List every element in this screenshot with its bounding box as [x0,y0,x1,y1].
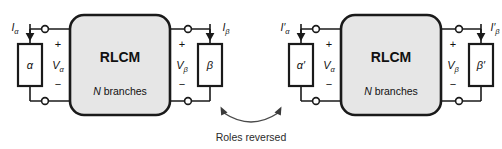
port-element-beta-label: β [206,59,214,71]
circuit-diagram-svg: RLCM N branches α Iα + Vα − [0,0,502,149]
current-arrow-left-head-primed [297,33,306,41]
voltage-label-left-primed-sub: α [331,65,336,74]
polarity-minus-left: − [55,78,61,90]
rlcm-title: RLCM [100,49,140,65]
rlcm-subtitle-rest: branches [101,85,147,97]
terminal-node-right-bottom [185,98,192,105]
voltage-label-left-primed: Vα [323,59,335,74]
rlcm-subtitle: N branches [93,85,147,97]
port-element-alpha-label: α [27,59,34,71]
current-label-right-primed-sub: β [494,27,500,36]
current-label-left-primed: I′α [280,21,290,36]
rlcm-subtitle-primed: N branches [364,85,418,97]
polarity-plus-left: + [55,38,61,50]
terminal-node-left-bottom-primed [313,98,320,105]
circuit-unprimed: RLCM N branches α Iα + Vα − [11,15,230,115]
polarity-plus-left-primed: + [326,38,332,50]
current-label-left-sub: α [14,27,19,36]
port-element-alpha-primed-label: α′ [297,59,306,71]
roles-reversed-caption: Roles reversed [216,131,287,143]
current-arrow-left-head [26,33,35,41]
voltage-label-left-sub: α [60,65,65,74]
terminal-node-right-top-primed [456,26,463,33]
rlcm-network-box-primed [341,15,441,115]
voltage-label-right: Vβ [176,59,188,74]
current-label-left-primed-sub: α [285,27,290,36]
voltage-label-right-primed: Vβ [447,59,459,74]
current-label-right-primed: I′β [490,21,500,36]
polarity-plus-right: + [179,38,185,50]
polarity-minus-left-primed: − [326,78,332,90]
port-element-beta-primed-label: β′ [476,59,486,71]
roles-reversed-annotation: Roles reversed [216,107,287,144]
terminal-node-left-bottom [42,98,49,105]
current-arrow-right-head [206,33,215,41]
current-label-left: Iα [11,21,19,36]
voltage-label-left: Vα [52,59,64,74]
terminal-node-right-top [185,26,192,33]
current-label-right: Iβ [222,21,230,36]
terminal-node-right-bottom-primed [456,98,463,105]
terminal-node-left-top [42,26,49,33]
roles-reversed-arc [224,113,278,122]
current-arrow-right-head-primed [477,33,486,41]
figure-root: RLCM N branches α Iα + Vα − [0,0,502,149]
polarity-plus-right-primed: + [450,38,456,50]
terminal-node-left-top-primed [313,26,320,33]
polarity-minus-right-primed: − [450,78,456,90]
rlcm-subtitle-primed-rest: branches [372,85,418,97]
rlcm-network-box [70,15,170,115]
current-label-right-sub: β [224,27,230,36]
polarity-minus-right: − [179,78,185,90]
voltage-label-right-primed-sub: β [454,65,460,74]
rlcm-title-primed: RLCM [371,49,411,65]
circuit-primed: RLCM N branches α′ I′α + Vα − [280,15,500,115]
voltage-label-right-sub: β [183,65,189,74]
